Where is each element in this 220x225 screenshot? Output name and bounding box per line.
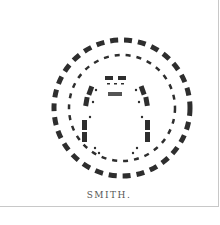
figure-page: SMITH. — [0, 0, 219, 207]
stone-circle-diagram — [0, 0, 218, 206]
inner-horseshoe-right — [132, 85, 150, 154]
outer-ring — [54, 40, 190, 176]
figure-caption: SMITH. — [0, 190, 218, 200]
central-stones — [105, 76, 126, 96]
middle-ring — [69, 55, 175, 161]
